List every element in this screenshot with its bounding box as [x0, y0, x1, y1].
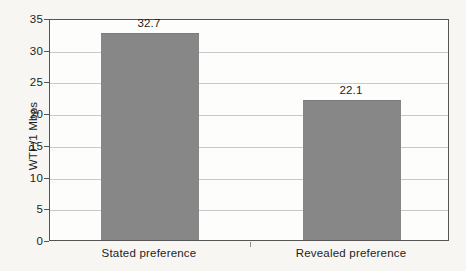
y-axis-tick-mark [44, 146, 49, 147]
y-axis-tick-mark [44, 209, 49, 210]
bar-top-edge [303, 100, 401, 101]
y-axis-tick-label: 35 [3, 13, 43, 25]
bar-value-label: 22.1 [306, 84, 396, 96]
y-axis-tick-mark [44, 19, 49, 20]
y-axis-tick-mark [44, 241, 49, 242]
bar-top-edge [101, 33, 199, 34]
x-axis-category-label: Revealed preference [261, 247, 441, 259]
y-axis-tick-label: 0 [3, 235, 43, 247]
bar [101, 33, 199, 240]
y-axis-title: WTP/1 Mbps [27, 66, 39, 206]
y-axis-tick-label: 30 [3, 45, 43, 57]
x-axis-center-tick [250, 242, 251, 247]
y-axis-tick-mark [44, 178, 49, 179]
bar [303, 100, 401, 240]
y-axis-tick-mark [44, 82, 49, 83]
y-axis-tick-mark [44, 114, 49, 115]
x-axis-category-label: Stated preference [59, 247, 239, 259]
plot-area [49, 19, 449, 241]
bar-chart-figure: 05101520253035 WTP/1 Mbps 32.722.1 State… [0, 0, 466, 271]
y-axis-tick-mark [44, 51, 49, 52]
bar-value-label: 32.7 [104, 17, 194, 29]
